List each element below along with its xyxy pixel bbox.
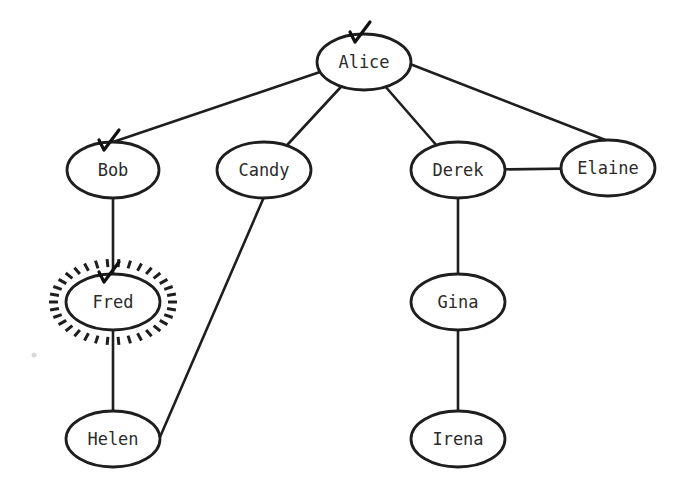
node-helen[interactable]: Helen [66, 411, 160, 467]
ray [74, 268, 79, 274]
node-gina[interactable]: Gina [411, 274, 505, 330]
node-derek[interactable]: Derek [411, 142, 505, 198]
ray [167, 294, 176, 295]
node-label: Gina [438, 292, 479, 312]
node-label: Candy [238, 160, 289, 180]
ray [107, 337, 108, 345]
node-elaine[interactable]: Elaine [561, 140, 655, 196]
node-candy[interactable]: Candy [217, 142, 311, 198]
edge-candy-helen [160, 197, 264, 437]
edge-alice-bob [113, 72, 320, 142]
ray [167, 308, 176, 309]
node-label: Helen [87, 429, 138, 449]
ray [138, 333, 142, 340]
ray [95, 336, 97, 344]
node-label: Derek [432, 160, 483, 180]
node-label: Fred [93, 292, 134, 312]
ray [107, 259, 108, 267]
ray [84, 333, 88, 340]
node-label: Alice [338, 52, 389, 72]
node-irena[interactable]: Irena [411, 411, 505, 467]
edge-alice-elaine [410, 64, 608, 141]
edges-layer [113, 62, 608, 439]
nodes-layer: AliceBobCandyDerekElaineFredGinaHelenIre… [66, 34, 655, 467]
node-label: Bob [98, 160, 129, 180]
ray [118, 337, 119, 345]
ray [59, 320, 67, 324]
ray [53, 315, 61, 318]
ray [66, 326, 73, 331]
ray [154, 326, 161, 331]
ray [95, 261, 97, 269]
ray [74, 330, 79, 336]
node-alice[interactable]: Alice [317, 34, 411, 90]
ray [164, 286, 172, 289]
stray-dot [32, 353, 37, 358]
ray [66, 273, 73, 278]
ray [53, 286, 61, 289]
node-label: Irena [432, 429, 483, 449]
node-label: Elaine [577, 158, 638, 178]
node-bob[interactable]: Bob [67, 142, 159, 198]
ray [138, 264, 142, 271]
ray [146, 330, 151, 336]
graph-canvas: AliceBobCandyDerekElaineFredGinaHelenIre… [0, 0, 684, 500]
ray [164, 315, 172, 318]
ray [50, 308, 59, 309]
node-fred[interactable]: Fred [66, 274, 160, 330]
ray [160, 279, 168, 283]
ray [59, 279, 67, 283]
ray [128, 261, 130, 269]
ray [128, 336, 130, 344]
ray [154, 273, 161, 278]
ray [146, 268, 151, 274]
ray [84, 264, 88, 271]
ray [50, 294, 59, 295]
ray [160, 320, 168, 324]
